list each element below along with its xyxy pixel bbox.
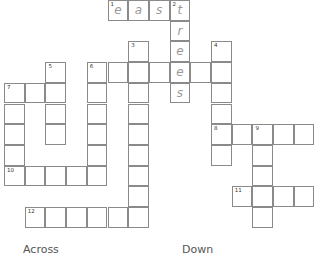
crossword-cell[interactable]: 4 xyxy=(211,41,232,62)
crossword-cell[interactable] xyxy=(4,104,25,125)
crossword-cell[interactable] xyxy=(211,104,232,125)
crossword-cell[interactable] xyxy=(45,207,66,228)
clue-number: 11 xyxy=(235,188,242,194)
crossword-cell[interactable] xyxy=(294,124,315,145)
cell-letter: s xyxy=(150,3,169,17)
crossword-cell[interactable]: 7 xyxy=(4,83,25,104)
crossword-cell[interactable] xyxy=(128,207,149,228)
crossword-cell[interactable]: r xyxy=(170,21,191,42)
crossword-cell[interactable] xyxy=(87,145,108,166)
clue-number: 3 xyxy=(131,43,135,49)
clue-number: 4 xyxy=(214,43,218,49)
crossword-cell[interactable] xyxy=(45,124,66,145)
cell-letter: e xyxy=(109,3,128,17)
crossword-cell[interactable] xyxy=(211,83,232,104)
crossword-cell[interactable]: s xyxy=(149,0,170,21)
crossword-cell[interactable] xyxy=(211,62,232,83)
crossword-cell[interactable] xyxy=(87,124,108,145)
clue-number: 9 xyxy=(255,126,259,132)
crossword-cell[interactable]: a xyxy=(128,0,149,21)
crossword-cell[interactable] xyxy=(252,186,273,207)
cell-letter: a xyxy=(129,3,148,17)
crossword-cell[interactable] xyxy=(252,207,273,228)
crossword-cell[interactable] xyxy=(252,166,273,187)
crossword-cell[interactable] xyxy=(45,83,66,104)
crossword-cell[interactable] xyxy=(190,62,211,83)
clue-number: 10 xyxy=(7,168,14,174)
crossword-cell[interactable]: e xyxy=(170,62,191,83)
clue-number: 5 xyxy=(48,64,52,70)
crossword-cell[interactable]: 9 xyxy=(252,124,273,145)
crossword-grid: 1eas2tr3e456e7s89101112 xyxy=(0,0,315,240)
crossword-cell[interactable]: 12 xyxy=(25,207,46,228)
crossword-cell[interactable] xyxy=(45,166,66,187)
crossword-cell[interactable] xyxy=(232,124,253,145)
crossword-cell[interactable] xyxy=(273,124,294,145)
crossword-cell[interactable] xyxy=(66,207,87,228)
crossword-cell[interactable]: 3 xyxy=(128,41,149,62)
crossword-cell[interactable] xyxy=(128,186,149,207)
crossword-cell[interactable]: 8 xyxy=(211,124,232,145)
crossword-cell[interactable] xyxy=(128,83,149,104)
crossword-cell[interactable]: 2t xyxy=(170,0,191,21)
crossword-cell[interactable] xyxy=(294,186,315,207)
crossword-cell[interactable] xyxy=(211,145,232,166)
cell-letter: e xyxy=(171,44,190,58)
crossword-cell[interactable] xyxy=(87,166,108,187)
crossword-cell[interactable] xyxy=(45,104,66,125)
crossword-cell[interactable] xyxy=(128,145,149,166)
crossword-cell[interactable] xyxy=(128,124,149,145)
crossword-cell[interactable] xyxy=(128,104,149,125)
crossword-cell[interactable] xyxy=(87,104,108,125)
clue-number: 6 xyxy=(90,64,94,70)
clue-number: 12 xyxy=(28,209,35,215)
cell-letter: s xyxy=(171,86,190,100)
crossword-cell[interactable]: 5 xyxy=(45,62,66,83)
crossword-cell[interactable]: 6 xyxy=(87,62,108,83)
cell-letter: e xyxy=(171,65,190,79)
crossword-cell[interactable] xyxy=(4,145,25,166)
crossword-cell[interactable] xyxy=(252,145,273,166)
clue-number: 8 xyxy=(214,126,218,132)
crossword-cell[interactable] xyxy=(87,207,108,228)
clue-number: 7 xyxy=(7,85,11,91)
crossword-cell[interactable]: e xyxy=(170,41,191,62)
crossword-cell[interactable] xyxy=(108,62,129,83)
crossword-cell[interactable] xyxy=(128,166,149,187)
crossword-cell[interactable]: s xyxy=(170,83,191,104)
crossword-cell[interactable] xyxy=(66,166,87,187)
crossword-cell[interactable] xyxy=(87,83,108,104)
crossword-cell[interactable] xyxy=(149,62,170,83)
crossword-cell[interactable]: 10 xyxy=(4,166,25,187)
down-heading: Down xyxy=(182,243,213,256)
cell-letter: t xyxy=(171,3,190,17)
cell-letter: r xyxy=(171,24,190,38)
crossword-cell[interactable] xyxy=(273,186,294,207)
crossword-cell[interactable]: 11 xyxy=(232,186,253,207)
crossword-cell[interactable] xyxy=(128,62,149,83)
crossword-cell[interactable] xyxy=(108,207,129,228)
crossword-cell[interactable]: 1e xyxy=(108,0,129,21)
across-heading: Across xyxy=(23,243,59,256)
crossword-cell[interactable] xyxy=(25,166,46,187)
crossword-cell[interactable] xyxy=(4,124,25,145)
crossword-cell[interactable] xyxy=(25,83,46,104)
